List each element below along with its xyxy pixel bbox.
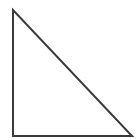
right-triangle xyxy=(13,10,132,136)
right-triangle-diagram xyxy=(0,0,136,139)
